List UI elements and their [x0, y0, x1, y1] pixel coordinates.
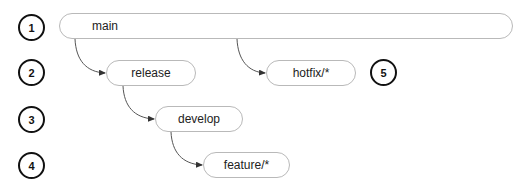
step-1-badge: 1	[18, 14, 45, 41]
step-3-label: 3	[28, 114, 34, 126]
branch-node-hotfix: hotfix/*	[266, 60, 356, 86]
step-5-badge: 5	[370, 59, 397, 86]
branch-label-develop: develop	[178, 112, 220, 126]
edge-main-to-release	[75, 39, 105, 73]
step-1-label: 1	[28, 22, 34, 34]
step-2-label: 2	[28, 67, 34, 79]
branch-label-hotfix: hotfix/*	[293, 66, 330, 80]
branch-node-release: release	[106, 60, 196, 86]
branch-node-main: main	[59, 13, 513, 39]
edge-develop-to-feature	[171, 132, 202, 165]
branch-node-feature: feature/*	[203, 152, 290, 178]
branch-label-release: release	[131, 66, 170, 80]
branch-label-feature: feature/*	[224, 158, 269, 172]
step-3-badge: 3	[18, 106, 45, 133]
step-2-badge: 2	[18, 59, 45, 86]
edge-main-to-hotfix	[237, 39, 265, 73]
branch-label-main: main	[92, 19, 118, 33]
step-5-label: 5	[380, 67, 386, 79]
branching-diagram: 1 2 3 4 5 main release hotfix/* develop …	[0, 0, 528, 195]
step-4-label: 4	[28, 160, 34, 172]
step-4-badge: 4	[18, 152, 45, 179]
branch-node-develop: develop	[155, 106, 243, 132]
edge-release-to-develop	[123, 86, 154, 119]
